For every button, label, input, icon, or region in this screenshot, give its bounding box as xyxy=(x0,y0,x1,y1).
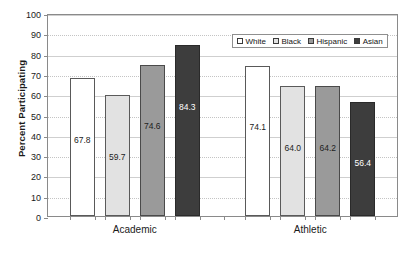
bar-athletic-black: 64.0 xyxy=(280,86,305,216)
y-axis-tick-mark xyxy=(44,177,48,178)
legend-item-white[interactable]: White xyxy=(237,37,266,46)
y-axis-tick-mark xyxy=(44,56,48,57)
legend-swatch-icon xyxy=(237,38,243,44)
bar-athletic-hispanic: 64.2 xyxy=(315,86,340,216)
legend-label: Black xyxy=(281,37,301,46)
y-axis-tick-mark xyxy=(44,76,48,77)
y-axis-tick-label: 70 xyxy=(1,71,41,81)
gridline xyxy=(48,15,397,16)
x-axis-group-label-academic: Academic xyxy=(113,224,157,235)
y-axis-tick-mark xyxy=(44,35,48,36)
y-axis-tick-mark xyxy=(44,15,48,16)
y-axis-tick-mark xyxy=(44,96,48,97)
gridline xyxy=(48,76,397,77)
legend-swatch-icon xyxy=(354,38,360,44)
bar-value-label: 84.3 xyxy=(176,103,199,112)
y-axis-tick-mark xyxy=(44,218,48,219)
x-axis-separator xyxy=(375,216,376,220)
chart-legend: WhiteBlackHispanicAsian xyxy=(232,34,388,48)
gridline xyxy=(48,56,397,57)
x-axis-separator xyxy=(175,216,176,220)
bar-academic-white: 67.8 xyxy=(70,78,95,216)
y-axis-tick-label: 90 xyxy=(1,30,41,40)
bar-value-label: 64.2 xyxy=(316,144,339,153)
x-axis-separator xyxy=(140,216,141,220)
bar-value-label: 59.7 xyxy=(106,153,129,162)
y-axis-tick-label: 30 xyxy=(1,152,41,162)
y-axis-tick-label: 50 xyxy=(1,112,41,122)
bar-academic-black: 59.7 xyxy=(105,95,130,216)
gridline xyxy=(48,117,397,118)
bar-academic-hispanic: 74.6 xyxy=(140,65,165,216)
x-axis-separator xyxy=(245,216,246,220)
gridline xyxy=(48,198,397,199)
x-axis-separator xyxy=(270,216,271,220)
gridline xyxy=(48,96,397,97)
x-axis-separator xyxy=(165,216,166,220)
y-axis-tick-mark xyxy=(44,117,48,118)
bar-academic-asian: 84.3 xyxy=(175,45,200,216)
x-axis-group-label-athletic: Athletic xyxy=(294,224,327,235)
legend-item-hispanic[interactable]: Hispanic xyxy=(308,37,347,46)
bar-value-label: 74.6 xyxy=(141,122,164,131)
y-axis-tick-mark xyxy=(44,137,48,138)
y-axis-tick-mark xyxy=(44,157,48,158)
bar-value-label: 67.8 xyxy=(71,136,94,145)
bar-chart: Percent Participating 100908070605040302… xyxy=(0,0,415,256)
legend-item-black[interactable]: Black xyxy=(273,37,301,46)
x-axis-separator xyxy=(340,216,341,220)
y-axis-tick-label: 100 xyxy=(1,10,41,20)
x-axis-separator xyxy=(200,216,201,220)
legend-label: Asian xyxy=(363,37,383,46)
x-axis-separator xyxy=(105,216,106,220)
x-axis-group-divider xyxy=(224,216,225,220)
x-axis-separator xyxy=(70,216,71,220)
bar-value-label: 64.0 xyxy=(281,144,304,153)
legend-swatch-icon xyxy=(273,38,279,44)
y-axis-tick-label: 20 xyxy=(1,172,41,182)
x-axis-separator xyxy=(305,216,306,220)
y-axis-tick-label: 80 xyxy=(1,51,41,61)
legend-label: White xyxy=(246,37,266,46)
gridline xyxy=(48,137,397,138)
x-axis-separator xyxy=(350,216,351,220)
x-axis-separator xyxy=(95,216,96,220)
y-axis-tick-mark xyxy=(44,198,48,199)
x-axis-separator xyxy=(280,216,281,220)
y-axis-tick-label: 10 xyxy=(1,193,41,203)
bar-athletic-white: 74.1 xyxy=(245,66,270,216)
y-axis-tick-label: 0 xyxy=(1,213,41,223)
x-axis-separator xyxy=(315,216,316,220)
y-axis-tick-label: 60 xyxy=(1,91,41,101)
gridline xyxy=(48,157,397,158)
bar-athletic-asian: 56.4 xyxy=(350,102,375,216)
legend-item-asian[interactable]: Asian xyxy=(354,37,383,46)
x-axis-separator xyxy=(130,216,131,220)
legend-swatch-icon xyxy=(308,38,314,44)
bar-value-label: 74.1 xyxy=(246,123,269,132)
legend-label: Hispanic xyxy=(317,37,348,46)
bar-value-label: 56.4 xyxy=(351,159,374,168)
gridline xyxy=(48,177,397,178)
y-axis-tick-label: 40 xyxy=(1,132,41,142)
